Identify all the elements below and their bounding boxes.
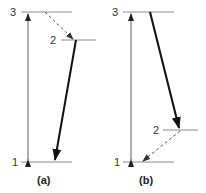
panel-a: 3 2 1 (a) bbox=[10, 6, 96, 186]
level-3: 3 bbox=[112, 6, 174, 18]
level-2: 2 bbox=[50, 34, 96, 46]
radiative-arrow-icon bbox=[55, 40, 76, 160]
level-3-label: 3 bbox=[10, 6, 16, 18]
panel-b-caption: (b) bbox=[139, 174, 153, 186]
radiative-arrow-icon bbox=[150, 12, 179, 128]
level-1: 1 bbox=[12, 156, 72, 168]
nonradiative-arrow-icon bbox=[143, 131, 180, 161]
level-2-label: 2 bbox=[50, 34, 56, 46]
panel-b: 3 2 1 (b) bbox=[112, 6, 198, 186]
level-1: 1 bbox=[114, 156, 174, 168]
level-3: 3 bbox=[10, 6, 72, 18]
level-1-label: 1 bbox=[12, 156, 18, 168]
energy-level-diagram: 3 2 1 (a) 3 2 1 bbox=[0, 0, 206, 193]
level-1-label: 1 bbox=[114, 156, 120, 168]
panel-a-caption: (a) bbox=[37, 174, 51, 186]
level-2-label: 2 bbox=[153, 124, 159, 136]
level-3-label: 3 bbox=[112, 6, 118, 18]
